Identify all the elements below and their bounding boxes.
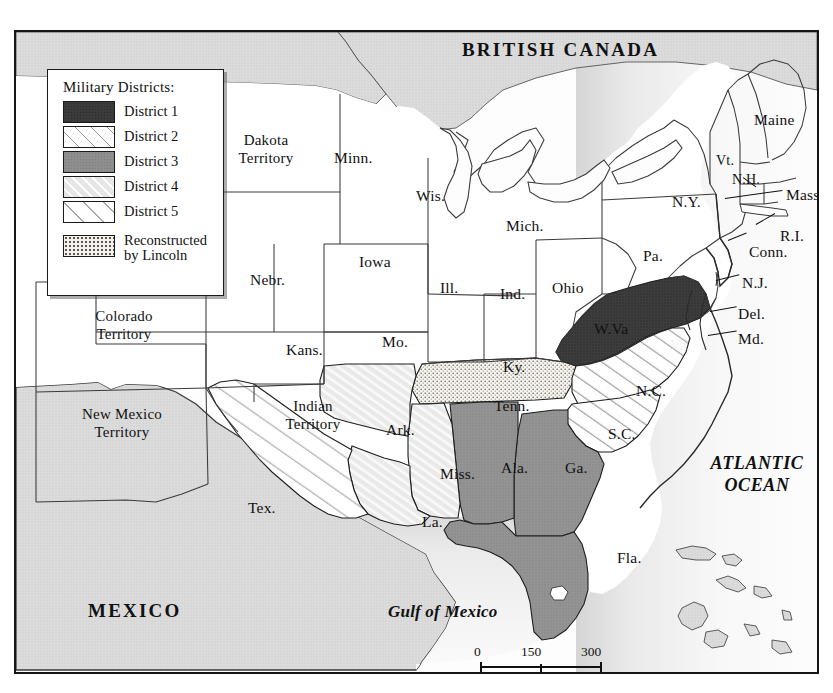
label-atlantic-ocean-line1: ATLANTIC (701, 454, 813, 473)
label-kansas: Kans. (286, 342, 323, 359)
label-dakota-territory-line2: Territory (214, 150, 318, 166)
label-pennsylvania: Pa. (643, 248, 663, 265)
label-nebraska: Nebr. (250, 272, 285, 289)
label-west-virginia: W.Va (594, 321, 628, 338)
scale-tick-label-300: 300 (581, 644, 601, 660)
label-new-york: N.Y. (672, 194, 701, 211)
label-new-mexico-territory-line2: Territory (62, 424, 182, 440)
legend-item-district-5: District 5 (48, 201, 223, 226)
map-legend: Military Districts: District 1 District … (47, 69, 224, 296)
map-screenshot: Military Districts: District 1 District … (0, 0, 833, 693)
label-new-jersey: N.J. (742, 275, 768, 292)
label-texas: Tex. (248, 500, 276, 517)
legend-swatch-district-3 (63, 151, 115, 173)
label-delaware: Del. (738, 306, 765, 323)
legend-swatch-reconstructed (63, 235, 115, 257)
label-iowa: Iowa (359, 254, 391, 271)
legend-title: Military Districts: (48, 70, 223, 101)
label-mexico: MEXICO (88, 601, 181, 622)
label-british-canada: BRITISH CANADA (462, 40, 659, 61)
legend-item-district-3: District 3 (48, 151, 223, 176)
label-connecticut: Conn. (749, 244, 787, 261)
label-georgia: Ga. (565, 460, 588, 477)
legend-label-district-3: District 3 (124, 154, 178, 169)
label-colorado-territory-line1: Colorado (72, 308, 176, 324)
legend-label-reconstructed-line1: Reconstructed (124, 233, 207, 248)
legend-item-reconstructed: Reconstructed by Lincoln (48, 226, 223, 266)
label-mississippi: Miss. (440, 466, 475, 483)
legend-label-district-4: District 4 (124, 179, 178, 194)
scale-bar-line (468, 662, 634, 673)
label-gulf-of-mexico: Gulf of Mexico (388, 603, 498, 621)
label-wisconsin: Wis. (416, 188, 445, 205)
label-virginia: Va. (670, 337, 691, 354)
label-south-carolina: S.C. (608, 426, 636, 443)
label-new-mexico-territory-line1: New Mexico (62, 406, 182, 422)
label-atlantic-ocean-line2: OCEAN (701, 476, 813, 495)
label-massachusetts: Mass. (786, 187, 819, 204)
scale-tick-150 (540, 664, 542, 672)
label-alabama: Ala. (501, 460, 528, 477)
label-maine: Maine (754, 112, 795, 129)
label-florida: Fla. (617, 550, 641, 567)
label-missouri: Mo. (382, 334, 408, 351)
scale-bar: 0 150 300 Miles (468, 644, 634, 674)
legend-swatch-district-5 (63, 201, 115, 223)
legend-swatch-district-1 (63, 101, 115, 123)
legend-label-reconstructed: Reconstructed by Lincoln (124, 233, 207, 263)
label-minnesota: Minn. (334, 150, 372, 167)
label-indian-territory-line2: Territory (261, 416, 365, 432)
label-tennessee: Tenn. (494, 398, 530, 415)
legend-item-district-4: District 4 (48, 176, 223, 201)
legend-label-district-1: District 1 (124, 104, 178, 119)
legend-item-district-2: District 2 (48, 126, 223, 151)
legend-label-reconstructed-line2: by Lincoln (124, 248, 207, 263)
label-indian-territory-line1: Indian (261, 398, 365, 414)
label-indiana: Ind. (500, 286, 525, 303)
legend-swatch-district-2 (63, 126, 115, 148)
label-maryland: Md. (738, 331, 764, 348)
legend-swatch-district-4 (63, 176, 115, 198)
scale-tick-label-0: 0 (474, 644, 481, 660)
label-dakota-territory-line1: Dakota (214, 132, 318, 148)
label-ohio: Ohio (552, 280, 584, 297)
label-arkansas: Ark. (386, 422, 415, 439)
scale-tick-300 (600, 662, 602, 672)
label-kentucky: Ky. (503, 359, 525, 376)
scale-tick-label-150: 150 (521, 644, 541, 660)
label-colorado-territory-line2: Territory (72, 326, 176, 342)
scale-tick-0 (480, 662, 482, 672)
label-north-carolina: N.C. (636, 383, 666, 400)
legend-label-district-5: District 5 (124, 204, 178, 219)
label-illinois: Ill. (440, 280, 458, 297)
label-vermont: Vt. (716, 153, 734, 168)
label-louisiana: La. (422, 514, 443, 531)
scale-bar-numbers: 0 150 300 (468, 644, 634, 661)
legend-item-district-1: District 1 (48, 101, 223, 126)
scale-bar-unit: Miles (468, 673, 634, 674)
map-frame: Military Districts: District 1 District … (14, 30, 819, 674)
label-michigan: Mich. (506, 218, 544, 235)
legend-label-district-2: District 2 (124, 129, 178, 144)
